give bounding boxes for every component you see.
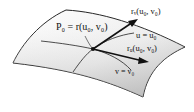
point-label: P₀ = r(u₀, v₀)	[56, 22, 108, 32]
rv-label: rᵥ(u₀, v₀)	[131, 7, 161, 16]
surface-diagram	[0, 0, 194, 112]
v-curve-label: v = v₀	[115, 68, 134, 76]
point-p0	[91, 47, 95, 51]
ru-label: rᵤ(u₀, v₀)	[127, 44, 157, 53]
u-curve-label: u = u₀	[136, 31, 157, 40]
